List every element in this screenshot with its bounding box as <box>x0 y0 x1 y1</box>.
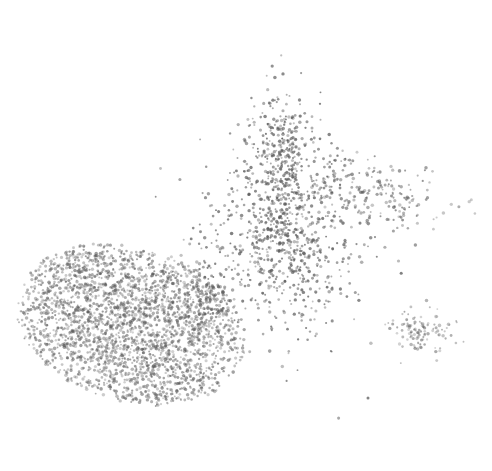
scatter-point <box>277 184 279 186</box>
scatter-point <box>126 289 128 291</box>
scatter-point <box>196 269 199 272</box>
scatter-point <box>114 314 117 317</box>
scatter-point <box>243 170 245 172</box>
scatter-point <box>193 329 195 331</box>
scatter-point <box>82 261 85 264</box>
scatter-point <box>272 170 275 173</box>
scatter-point <box>169 323 171 325</box>
scatter-point <box>243 160 246 163</box>
scatter-point <box>49 260 52 263</box>
scatter-point <box>187 382 190 385</box>
scatter-point <box>258 234 261 237</box>
scatter-point <box>241 233 244 236</box>
scatter-point <box>290 168 293 171</box>
scatter-point <box>288 168 290 170</box>
scatter-point <box>55 318 57 320</box>
scatter-point <box>286 328 289 331</box>
scatter-point <box>217 329 220 332</box>
scatter-point <box>232 252 235 255</box>
scatter-point <box>47 317 50 320</box>
scatter-point <box>252 202 255 205</box>
scatter-point <box>66 327 69 330</box>
scatter-point <box>268 207 271 210</box>
scatter-point <box>270 240 272 242</box>
scatter-point <box>133 359 135 361</box>
scatter-point <box>101 286 103 288</box>
scatter-point <box>232 322 234 324</box>
scatter-point <box>300 196 303 199</box>
scatter-point <box>115 326 118 329</box>
scatter-point <box>193 301 195 303</box>
scatter-point <box>277 134 280 137</box>
scatter-point <box>145 288 148 291</box>
scatter-point <box>93 312 95 314</box>
scatter-point <box>199 385 201 387</box>
scatter-point <box>156 311 159 314</box>
scatter-point <box>172 374 175 377</box>
scatter-point <box>266 75 268 77</box>
scatter-point <box>262 134 265 137</box>
scatter-point <box>438 324 442 328</box>
scatter-point <box>81 284 83 286</box>
scatter-point <box>285 115 287 117</box>
scatter-point <box>420 322 422 324</box>
scatter-point <box>205 341 208 344</box>
scatter-point <box>97 345 100 348</box>
scatter-point <box>98 383 100 385</box>
scatter-point <box>222 307 224 309</box>
scatter-point <box>281 72 284 75</box>
scatter-point <box>122 355 124 357</box>
scatter-point <box>306 237 308 239</box>
scatter-point <box>419 343 421 345</box>
scatter-point <box>89 351 92 354</box>
scatter-point <box>261 155 263 157</box>
scatter-point <box>290 254 292 256</box>
scatter-point <box>212 389 215 392</box>
scatter-point <box>422 336 424 338</box>
scatter-point <box>320 195 322 197</box>
scatter-point <box>142 301 144 303</box>
scatter-point <box>58 306 61 309</box>
scatter-point <box>140 255 142 257</box>
scatter-point <box>152 344 155 347</box>
scatter-point <box>84 264 87 267</box>
scatter-point <box>136 357 138 359</box>
scatter-point <box>259 163 262 166</box>
scatter-point <box>124 274 126 276</box>
scatter-point <box>117 357 120 360</box>
scatter-point <box>316 223 318 225</box>
scatter-point <box>214 361 217 364</box>
scatter-point <box>166 267 169 270</box>
scatter-point <box>102 303 104 305</box>
scatter-point <box>142 344 144 346</box>
scatter-point <box>128 323 131 326</box>
scatter-point <box>91 326 95 330</box>
scatter-point <box>86 257 88 259</box>
scatter-point <box>298 269 301 272</box>
scatter-point <box>249 124 251 126</box>
scatter-point <box>51 302 54 305</box>
scatter-point <box>51 312 53 314</box>
scatter-point <box>135 327 137 329</box>
scatter-point <box>273 76 277 80</box>
scatter-point <box>97 363 100 366</box>
scatter-point <box>180 349 182 351</box>
scatter-point <box>313 274 316 277</box>
scatter-point <box>33 347 36 350</box>
scatter-point <box>266 251 268 253</box>
scatter-point <box>64 277 68 281</box>
scatter-point <box>125 387 127 389</box>
scatter-point <box>134 313 138 317</box>
scatter-point <box>233 298 236 301</box>
scatter-point <box>52 360 54 362</box>
scatter-point <box>76 286 79 289</box>
scatter-point <box>347 256 350 259</box>
scatter-point <box>363 203 365 205</box>
scatter-point <box>199 353 201 355</box>
scatter-point <box>272 274 275 277</box>
scatter-point <box>180 356 182 358</box>
scatter-point <box>336 147 339 150</box>
scatter-point <box>135 296 138 299</box>
scatter-point <box>377 171 379 173</box>
scatter-point <box>129 358 131 360</box>
